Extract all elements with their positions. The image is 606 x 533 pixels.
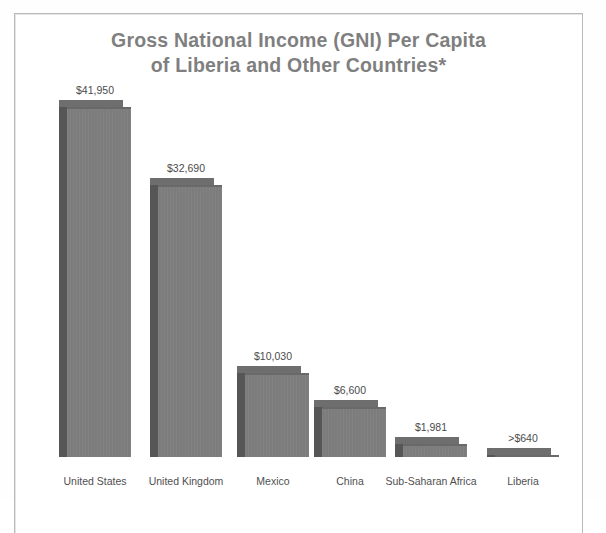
bar-front-face: [158, 185, 222, 457]
bar-side-face: [150, 185, 158, 457]
bar-front-face: [245, 373, 309, 457]
bar-top-face: [59, 100, 123, 107]
bar-column: [314, 400, 386, 457]
bar-value-label: $41,950: [59, 84, 131, 96]
bar-group: $32,690United Kingdom: [150, 178, 222, 457]
bar-top-bevel: [67, 107, 131, 109]
bar-front-face: [67, 107, 131, 457]
bar-top-bevel: [245, 373, 309, 375]
bar-side-face: [237, 373, 245, 457]
bar-value-label: >$640: [487, 432, 559, 444]
bar-top-bevel: [158, 185, 222, 187]
bar-top-bevel: [495, 455, 559, 457]
bar-column: [395, 437, 467, 457]
bar-side-face: [59, 107, 67, 457]
bar-value-label: $32,690: [150, 162, 222, 174]
bar-group: $6,600China: [314, 400, 386, 457]
bar-group: $1,981Sub-Saharan Africa: [395, 437, 467, 457]
bar-front-face: [322, 407, 386, 457]
bar-side-face: [395, 444, 403, 457]
bar-column: [237, 366, 309, 457]
bar-top-face: [237, 366, 301, 373]
plot-area: $41,950United States$32,690United Kingdo…: [14, 13, 583, 499]
bar-side-face: [487, 455, 495, 457]
bar-column: [59, 100, 131, 457]
bar-top-bevel: [322, 407, 386, 409]
bar-top-face: [487, 448, 551, 455]
bar-top-face: [150, 178, 214, 185]
bar-category-label: Mexico: [256, 475, 289, 487]
bar-top-face: [314, 400, 378, 407]
bar-category-label: Sub-Saharan Africa: [385, 475, 476, 487]
bar-group: >$640Liberia: [487, 448, 559, 457]
bar-top-bevel: [403, 444, 467, 446]
bar-value-label: $10,030: [237, 350, 309, 362]
bar-group: $41,950United States: [59, 100, 131, 457]
bar-group: $10,030Mexico: [237, 366, 309, 457]
bar-category-label: China: [336, 475, 363, 487]
bar-side-face: [314, 407, 322, 457]
bar-category-label: Liberia: [507, 475, 539, 487]
bar-category-label: United States: [63, 475, 126, 487]
bar-top-face: [395, 437, 459, 444]
bar-value-label: $1,981: [395, 421, 467, 433]
bar-value-label: $6,600: [314, 384, 386, 396]
bar-column: [487, 448, 559, 457]
bar-column: [150, 178, 222, 457]
bar-category-label: United Kingdom: [149, 475, 224, 487]
